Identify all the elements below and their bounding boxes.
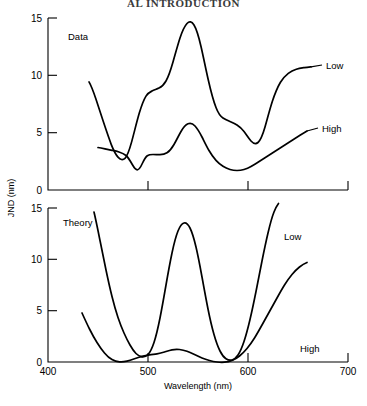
panel-data-axes: [48, 18, 348, 190]
panel-data-label-low: Low: [326, 60, 344, 71]
panel-data-curve-low: [89, 22, 311, 160]
panel-theory-label-high: High: [300, 343, 320, 354]
panel-theory-ylabel-5: 5: [36, 305, 42, 316]
panel-data-title: Data: [68, 31, 89, 42]
panel-theory-title: Theory: [63, 217, 93, 228]
panel-data-high-leader: [307, 128, 318, 131]
xaxis-label-600: 600: [240, 366, 257, 377]
panel-theory-curve-low: [94, 204, 279, 361]
panel-theory: 15 10 5 0 Theory Low High: [31, 203, 348, 368]
xaxis-label-400: 400: [40, 366, 57, 377]
panel-data-ylabel-10: 10: [31, 70, 43, 81]
panel-theory-ylabel-15: 15: [31, 203, 43, 214]
panel-data-ylabel-0: 0: [36, 185, 42, 196]
panel-data-label-high: High: [322, 123, 342, 134]
panel-theory-label-low: Low: [284, 231, 302, 242]
jnd-wavelength-figure: 15 10 5 0 Data Low High 15: [0, 0, 367, 406]
xaxis-label-500: 500: [140, 366, 157, 377]
figure-root: AL INTRODUCTION 15 10 5 0 Data: [0, 0, 367, 406]
xaxis-title: Wavelength (nm): [164, 381, 232, 391]
panel-theory-ylabel-10: 10: [31, 254, 43, 265]
panel-theory-axes: [48, 208, 348, 362]
panel-data-low-leader: [311, 65, 322, 67]
panel-data-ylabel-5: 5: [36, 127, 42, 138]
xaxis-label-700: 700: [340, 366, 357, 377]
panel-data-ylabel-15: 15: [31, 13, 43, 24]
yaxis-title: JND (nm): [6, 179, 16, 218]
panel-data: 15 10 5 0 Data Low High: [31, 13, 348, 196]
